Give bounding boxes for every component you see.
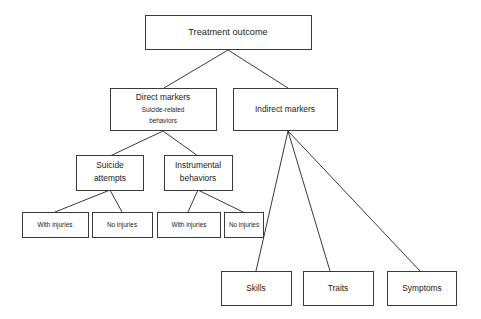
traits-label: Traits <box>328 283 349 293</box>
edge-direct-to-instrumental <box>163 131 198 156</box>
node-direct-markers[interactable]: Direct markers Suicide-related behaviors <box>111 89 217 131</box>
suicide-attempts-label-line1: Suicide <box>96 160 124 170</box>
edge-suicide-to-with-injuries <box>55 190 110 212</box>
node-instrumental-behaviors[interactable]: Instrumental behaviors <box>165 156 233 191</box>
node-skills[interactable]: Skills <box>222 272 292 306</box>
edge-indirect-to-traits <box>288 131 330 271</box>
suicide-with-injuries-label: With injuries <box>38 221 73 229</box>
instrumental-no-injuries-label: No injuries <box>229 221 259 229</box>
edge-indirect-to-symptoms <box>288 131 420 271</box>
indirect-markers-label: Indirect markers <box>255 104 315 114</box>
direct-markers-label: Direct markers <box>136 92 190 102</box>
node-instrumental-with-injuries[interactable]: With injuries <box>158 213 221 238</box>
symptoms-label: Symptoms <box>402 283 442 293</box>
edge-indirect-to-skills <box>256 131 288 271</box>
instrumental-behaviors-label-line1: Instrumental <box>175 160 221 170</box>
node-indirect-markers[interactable]: Indirect markers <box>234 89 338 131</box>
node-suicide-no-injuries[interactable]: No injuries <box>93 213 153 238</box>
edge-treatment-to-indirect <box>228 50 288 88</box>
node-symptoms[interactable]: Symptoms <box>388 272 457 306</box>
direct-markers-sublabel-1: Suicide-related <box>142 106 185 113</box>
node-traits[interactable]: Traits <box>304 272 374 306</box>
edge-direct-to-suicide-attempts <box>110 131 163 156</box>
edge-suicide-to-no-injuries <box>110 190 122 212</box>
node-suicide-attempts[interactable]: Suicide attempts <box>77 156 144 191</box>
diagram-canvas: Treatment outcome Direct markers Suicide… <box>0 0 481 319</box>
edge-instrumental-to-no-injuries <box>198 190 243 212</box>
treatment-outcome-hierarchy-diagram: Treatment outcome Direct markers Suicide… <box>0 0 481 319</box>
node-suicide-with-injuries[interactable]: With injuries <box>23 213 89 238</box>
edge-instrumental-to-with-injuries <box>188 190 198 212</box>
suicide-attempts-label-line2: attempts <box>94 173 126 183</box>
node-instrumental-no-injuries[interactable]: No injuries <box>225 213 264 238</box>
skills-label: Skills <box>246 283 266 293</box>
node-treatment-outcome[interactable]: Treatment outcome <box>146 16 312 50</box>
instrumental-behaviors-label-line2: behaviors <box>180 173 216 183</box>
treatment-outcome-label: Treatment outcome <box>188 27 267 37</box>
suicide-no-injuries-label: No injuries <box>107 221 137 229</box>
instrumental-with-injuries-label: With injuries <box>172 221 207 229</box>
direct-markers-sublabel-2: behaviors <box>149 117 177 124</box>
edge-treatment-to-direct <box>164 50 228 88</box>
